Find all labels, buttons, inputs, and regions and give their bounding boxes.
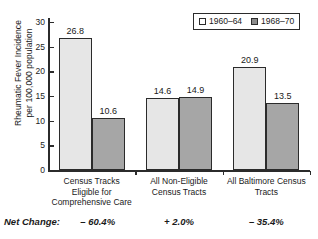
y-tick-label: 10 xyxy=(36,116,45,126)
net-change-label: Net Change: xyxy=(4,216,60,227)
plot-area: 051015202530 26.810.614.614.920.913.5 xyxy=(48,22,310,170)
net-change-value: – 60.4% xyxy=(80,216,115,227)
y-tick-label: 15 xyxy=(36,91,45,101)
bar xyxy=(92,118,125,170)
y-tick-mark xyxy=(50,145,54,146)
bar xyxy=(179,97,212,171)
bar xyxy=(146,98,179,170)
y-tick-label: 25 xyxy=(36,42,45,52)
bar xyxy=(233,67,266,170)
y-axis-line xyxy=(48,18,50,170)
y-axis-title: Rheumatic Fever Incidence per 100,000 po… xyxy=(13,0,35,159)
bar-value-label: 14.6 xyxy=(154,86,172,96)
bar-value-label: 20.9 xyxy=(241,55,259,65)
x-tick-mark xyxy=(310,171,311,175)
category-label: All Baltimore Census Tracts xyxy=(211,176,318,197)
y-tick-label: 30 xyxy=(36,17,45,27)
bar xyxy=(266,103,299,170)
y-tick-mark xyxy=(50,96,54,97)
net-change-value: – 35.4% xyxy=(249,216,284,227)
rheumatic-fever-bar-chart: Rheumatic Fever Incidence per 100,000 po… xyxy=(0,0,318,239)
bar-value-label: 13.5 xyxy=(274,91,292,101)
bar-value-label: 26.8 xyxy=(66,26,84,36)
y-tick-mark xyxy=(50,71,54,72)
y-tick-label: 0 xyxy=(40,165,45,175)
y-tick-mark xyxy=(50,121,54,122)
x-tick-mark xyxy=(223,171,224,175)
x-axis-line xyxy=(48,170,310,172)
y-tick-label: 20 xyxy=(36,66,45,76)
bar-value-label: 10.6 xyxy=(99,106,117,116)
y-tick-mark xyxy=(50,22,54,23)
net-change-value: + 2.0% xyxy=(164,216,194,227)
x-tick-mark xyxy=(135,171,136,175)
y-tick-mark xyxy=(50,170,54,171)
y-tick-mark xyxy=(50,47,54,48)
bar-value-label: 14.9 xyxy=(187,85,205,95)
y-tick-label: 5 xyxy=(40,140,45,150)
bar xyxy=(59,38,92,170)
net-change-row: Net Change: – 60.4%+ 2.0%– 35.4% xyxy=(0,216,318,232)
